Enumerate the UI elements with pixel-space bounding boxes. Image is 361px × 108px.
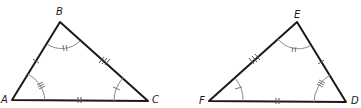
vertex-label-c: C [152, 94, 159, 105]
vertex-label-d: D [351, 95, 359, 106]
angle-b-marks [47, 41, 80, 51]
vertex-label-b: B [56, 6, 63, 17]
angle-d-marks [314, 75, 330, 102]
angle-f-marks [235, 78, 243, 101]
triangle-abc [12, 22, 148, 103]
congruent-triangles-diagram: B A C E F D [0, 0, 361, 108]
vertex-label-a: A [0, 94, 8, 105]
triangle-def-outline [209, 22, 346, 102]
vertex-label-e: E [294, 9, 301, 20]
angle-c-marks [113, 78, 123, 101]
triangle-def [209, 22, 346, 104]
vertex-label-f: F [199, 95, 205, 106]
angle-e-marks [278, 39, 310, 52]
triangle-abc-outline [12, 22, 148, 101]
angle-a-marks [28, 74, 45, 100]
